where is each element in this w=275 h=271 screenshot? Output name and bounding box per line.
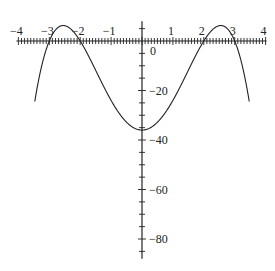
y-tick-label: −40 [149, 133, 168, 147]
x-tick-label: 2 [199, 24, 205, 38]
y-tick-label: −80 [149, 232, 168, 246]
y-tick-label: 0 [150, 44, 156, 58]
y-tick-label: −20 [149, 84, 168, 98]
x-tick-label: −4 [10, 24, 23, 38]
x-tick-label: −1 [103, 24, 116, 38]
x-tick-label: 4 [261, 24, 267, 38]
function-plot: −4−3−2−112340−20−40−60−80 [0, 0, 275, 271]
x-tick-label: 1 [168, 24, 174, 38]
tick-labels: −4−3−2−112340−20−40−60−80 [10, 24, 267, 246]
x-tick-label: −2 [72, 24, 85, 38]
y-tick-label: −60 [149, 183, 168, 197]
